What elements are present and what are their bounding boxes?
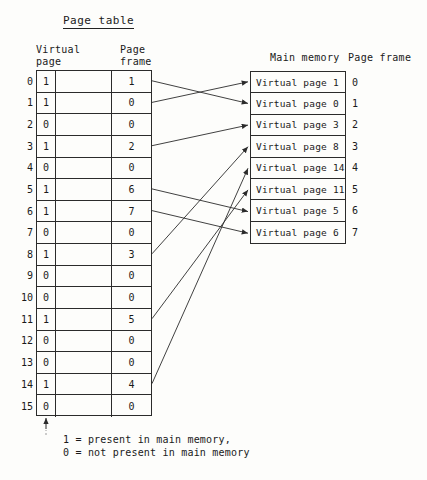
mapping-arrow xyxy=(152,211,248,234)
main-memory-content: Virtual page 8 xyxy=(256,141,339,152)
page-table: 0111102003124005166177008139001000111512… xyxy=(36,70,152,416)
page-table-row: 617 xyxy=(37,201,151,223)
page-table-row: 1000 xyxy=(37,287,151,309)
page-table-present-bit: 0 xyxy=(37,266,56,287)
page-table-row-index: 4 xyxy=(15,158,33,179)
page-table-spacer xyxy=(56,331,111,352)
main-memory-frame-number: 3 xyxy=(352,136,358,156)
main-memory-content: Virtual page 0 xyxy=(256,98,339,109)
page-table-present-bit: 0 xyxy=(37,114,56,135)
main-memory-content: Virtual page 1 xyxy=(256,77,339,88)
page-table-present-bit: 1 xyxy=(37,179,56,200)
page-table-row-index: 6 xyxy=(15,201,33,222)
mapping-arrow xyxy=(152,81,248,104)
page-table-present-bit: 0 xyxy=(37,222,56,243)
page-table-row-index: 12 xyxy=(15,331,33,352)
page-table-frame-number: 0 xyxy=(111,331,151,352)
main-memory-frame-number: 5 xyxy=(352,179,358,199)
page-table-row-index: 10 xyxy=(15,287,33,308)
page-table-present-bit: 1 xyxy=(37,309,56,330)
page-table-spacer xyxy=(56,309,111,330)
page-table-frame-number: 0 xyxy=(111,158,151,179)
page-table-frame-number: 4 xyxy=(111,374,151,395)
main-memory-frame-number: 6 xyxy=(352,200,358,220)
legend-line-absent: 0 = not present in main memory xyxy=(63,446,250,459)
paging-diagram: Page table Virtual page Page frame Main … xyxy=(0,0,427,480)
page-table-frame-number: 0 xyxy=(111,93,151,114)
page-table-spacer xyxy=(56,395,111,417)
page-table-row: 400 xyxy=(37,158,151,180)
main-memory-row: Virtual page 144 xyxy=(251,158,345,179)
main-memory-content: Virtual page 11 xyxy=(256,184,345,195)
page-table-present-bit: 0 xyxy=(37,352,56,373)
page-table-row: 516 xyxy=(37,179,151,201)
page-table-present-bit: 0 xyxy=(37,395,56,417)
page-table-row-index: 7 xyxy=(15,222,33,243)
main-memory-frame-number: 7 xyxy=(352,222,358,243)
main-memory-row: Virtual page 32 xyxy=(251,115,345,136)
page-table-spacer xyxy=(56,352,111,373)
mapping-arrow xyxy=(152,125,248,146)
virtual-page-header: Virtual page xyxy=(36,44,80,68)
main-memory-row: Virtual page 56 xyxy=(251,200,345,221)
page-frame-header-line1: Page xyxy=(120,44,152,56)
page-frame-header: Page frame xyxy=(120,44,152,68)
main-memory-content: Virtual page 6 xyxy=(256,227,339,238)
page-table-frame-number: 1 xyxy=(111,71,151,92)
page-table-present-bit: 1 xyxy=(37,93,56,114)
page-table-row: 1115 xyxy=(37,309,151,331)
main-memory-content: Virtual page 5 xyxy=(256,205,339,216)
page-table-row-index: 9 xyxy=(15,266,33,287)
page-table-spacer xyxy=(56,179,111,200)
page-frame-header-line2: frame xyxy=(120,56,152,68)
page-table-spacer xyxy=(56,266,111,287)
main-memory-row: Virtual page 01 xyxy=(251,93,345,114)
page-table-frame-number: 0 xyxy=(111,114,151,135)
page-table-present-bit: 0 xyxy=(37,331,56,352)
page-table-frame-number: 2 xyxy=(111,136,151,157)
main-memory-row: Virtual page 115 xyxy=(251,179,345,200)
legend-line-present: 1 = present in main memory, xyxy=(63,433,250,446)
page-table-frame-number: 3 xyxy=(111,244,151,265)
page-table-frame-number: 0 xyxy=(111,287,151,308)
page-table-frame-number: 0 xyxy=(111,395,151,417)
mapping-arrow xyxy=(152,190,248,319)
legend: 1 = present in main memory, 0 = not pres… xyxy=(63,433,250,459)
main-memory-table: Virtual page 10Virtual page 01Virtual pa… xyxy=(250,71,346,244)
page-table-spacer xyxy=(56,244,111,265)
virtual-page-header-line2: page xyxy=(36,56,80,68)
page-table-frame-number: 5 xyxy=(111,309,151,330)
page-table-row: 1500 xyxy=(37,395,151,417)
page-table-row: 110 xyxy=(37,93,151,115)
page-table-spacer xyxy=(56,374,111,395)
page-table-spacer xyxy=(56,114,111,135)
page-table-row-index: 11 xyxy=(15,309,33,330)
mapping-arrow xyxy=(152,82,248,103)
page-table-frame-number: 0 xyxy=(111,222,151,243)
page-table-frame-number: 6 xyxy=(111,179,151,200)
mapping-arrow xyxy=(152,147,248,254)
page-table-row-index: 14 xyxy=(15,374,33,395)
page-table-row: 813 xyxy=(37,244,151,266)
page-table-frame-number: 0 xyxy=(111,352,151,373)
page-table-row-index: 5 xyxy=(15,179,33,200)
virtual-page-header-line1: Virtual xyxy=(36,44,80,56)
page-table-spacer xyxy=(56,287,111,308)
page-table-present-bit: 1 xyxy=(37,136,56,157)
page-table-present-bit: 1 xyxy=(37,201,56,222)
main-memory-frame-number: 1 xyxy=(352,93,358,113)
main-memory-content: Virtual page 14 xyxy=(256,162,345,173)
page-table-spacer xyxy=(56,222,111,243)
main-memory-row: Virtual page 10 xyxy=(251,72,345,93)
page-table-present-bit: 0 xyxy=(37,287,56,308)
main-memory-content: Virtual page 3 xyxy=(256,119,339,130)
page-table-present-bit: 1 xyxy=(37,71,56,92)
page-table-row: 200 xyxy=(37,114,151,136)
page-table-spacer xyxy=(56,93,111,114)
main-memory-row: Virtual page 83 xyxy=(251,136,345,157)
page-table-row-index: 8 xyxy=(15,244,33,265)
page-table-row-index: 0 xyxy=(15,71,33,92)
page-table-row-index: 15 xyxy=(15,395,33,417)
page-table-row-index: 13 xyxy=(15,352,33,373)
page-table-present-bit: 1 xyxy=(37,374,56,395)
